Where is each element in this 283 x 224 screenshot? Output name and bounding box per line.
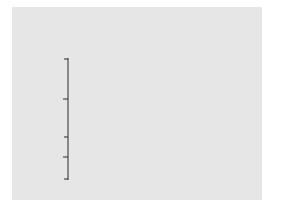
diagram-lines — [0, 0, 283, 224]
